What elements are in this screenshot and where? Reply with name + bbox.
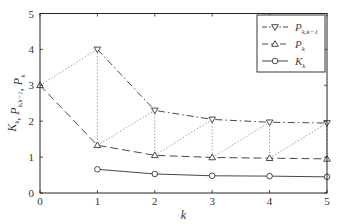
series-2	[95, 167, 330, 180]
data-point-marker	[152, 171, 158, 177]
series-1	[37, 82, 331, 161]
data-point-marker	[95, 167, 101, 173]
x-tick-label: 0	[37, 195, 43, 207]
chart: 012345012345kKk, Pk,k−1, Pk Pk,k−1PkKk	[0, 0, 340, 224]
x-tick-label: 4	[267, 195, 273, 207]
data-point-marker	[209, 173, 215, 179]
data-point-marker	[209, 117, 216, 123]
data-point-marker	[152, 108, 159, 114]
legend-marker-icon	[272, 58, 278, 64]
data-point-marker	[266, 120, 273, 126]
x-tick-label: 1	[95, 195, 101, 207]
data-point-marker	[267, 173, 273, 179]
x-tick-label: 2	[152, 195, 158, 207]
x-tick-label: 5	[324, 195, 330, 207]
y-tick-label: 1	[29, 151, 35, 163]
legend-box	[257, 15, 325, 72]
x-axis-label: k	[181, 208, 187, 222]
y-tick-label: 5	[29, 8, 35, 20]
y-tick-label: 0	[29, 187, 35, 199]
y-tick-label: 2	[29, 115, 35, 127]
y-axis-label: Kk, Pk,k−1, Pk	[5, 74, 27, 133]
legend: Pk,k−1PkKk	[257, 15, 325, 72]
y-tick-label: 3	[29, 79, 35, 91]
data-point-marker	[266, 155, 273, 161]
x-tick-label: 3	[209, 195, 215, 207]
y-tick-label: 4	[29, 43, 35, 55]
